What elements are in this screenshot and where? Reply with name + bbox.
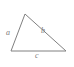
triangle-outline [11, 14, 66, 51]
side-label-a: a [6, 29, 10, 37]
triangle-diagram: a b c [0, 0, 74, 67]
side-label-c: c [35, 52, 39, 60]
side-label-b: b [41, 27, 45, 35]
